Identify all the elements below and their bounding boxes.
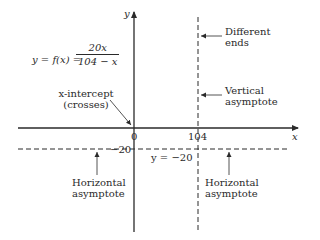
- vertical-asymptote-line2: asymptote: [225, 96, 278, 107]
- horizontal-asymptote-right-line2: asymptote: [205, 188, 257, 199]
- x-tick-104-label: 104: [188, 131, 207, 142]
- horizontal-asymptote-left-line1: Horizontal: [72, 177, 124, 188]
- horizontal-asymptote-right-line1: Horizontal: [205, 177, 257, 188]
- y-axis-label: y: [124, 8, 130, 19]
- equation-numerator: 20x: [76, 42, 119, 55]
- x-intercept-line1: x-intercept: [55, 88, 117, 99]
- horizontal-asymptote-right-annotation: Horizontal asymptote: [205, 177, 257, 199]
- different-ends-annotation: Different ends: [225, 26, 270, 48]
- horizontal-asymptote-left-annotation: Horizontal asymptote: [72, 177, 124, 199]
- vertical-asymptote-annotation: Vertical asymptote: [225, 85, 278, 107]
- horizontal-asymptote-equation: y = −20: [151, 152, 193, 163]
- equation-lhs: y = f(x) =: [32, 54, 81, 65]
- horizontal-asymptote-left-line2: asymptote: [72, 188, 124, 199]
- origin-label: 0: [131, 131, 137, 142]
- x-intercept-line2: (crosses): [55, 99, 117, 110]
- x-axis-label: x: [292, 131, 298, 142]
- different-ends-line2: ends: [225, 37, 270, 48]
- equation-fraction: 20x 104 − x: [76, 42, 119, 67]
- y-tick-neg20-label: −20: [110, 144, 131, 155]
- vertical-asymptote-line1: Vertical: [225, 85, 278, 96]
- equation-denominator: 104 − x: [76, 55, 119, 67]
- x-intercept-annotation: x-intercept (crosses): [55, 88, 117, 110]
- different-ends-line1: Different: [225, 26, 270, 37]
